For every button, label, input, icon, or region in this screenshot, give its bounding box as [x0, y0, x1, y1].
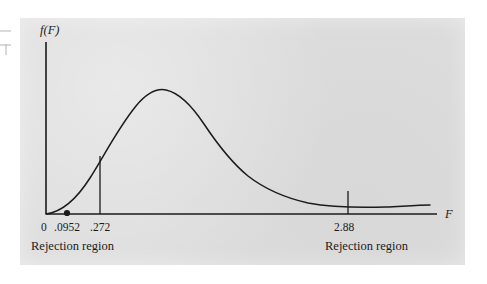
tick-label-origin: 0 [41, 222, 47, 234]
figure-root: f(F) F 0 .0952 .272 2.88 Rejection regio… [0, 0, 487, 284]
rejection-region-left-label: Rejection region [31, 240, 114, 253]
density-curve [46, 90, 430, 214]
tick-label-upper-critical: 2.88 [334, 222, 354, 234]
tick-label-alpha-point: .0952 [54, 222, 80, 234]
y-axis-label: f(F) [40, 24, 59, 37]
tick-label-lower-critical: .272 [90, 222, 110, 234]
x-axis-label: F [445, 208, 453, 221]
observed-statistic-dot [64, 210, 70, 216]
rejection-region-right-label: Rejection region [325, 240, 408, 253]
